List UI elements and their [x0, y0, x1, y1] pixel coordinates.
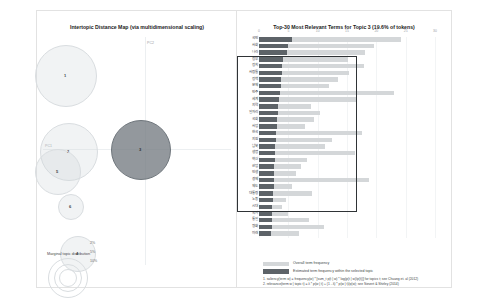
- term-row[interactable]: 대통령: [259, 191, 435, 196]
- topic-bubble-label-1: 1: [64, 73, 66, 78]
- pc2-axis-label: PC2: [147, 41, 154, 45]
- term-label[interactable]: 인생: [252, 170, 258, 175]
- bar-topic-frequency: [259, 124, 277, 129]
- bar-topic-frequency: [259, 104, 278, 109]
- bar-topic-frequency: [259, 171, 274, 176]
- term-label[interactable]: 나라: [252, 50, 258, 55]
- bar-topic-frequency: [259, 84, 281, 89]
- term-label[interactable]: 국회: [252, 117, 258, 122]
- bar-topic-frequency: [259, 44, 288, 49]
- term-row[interactable]: 세계: [259, 97, 435, 102]
- topic-bubble-label-6: 6: [69, 204, 71, 209]
- bar-topic-frequency: [259, 164, 274, 169]
- marginal-topic-distribution-legend: Marginal topic distribution 2%5%10%: [47, 231, 167, 287]
- term-label[interactable]: 대통령: [249, 191, 258, 196]
- term-row[interactable]: 국회: [259, 117, 435, 122]
- term-label[interactable]: 한국: [252, 130, 258, 135]
- bar-topic-frequency: [259, 158, 275, 163]
- term-row[interactable]: 사람들: [259, 71, 435, 76]
- term-label[interactable]: 미래: [252, 231, 258, 236]
- bar-topic-frequency: [259, 184, 274, 189]
- term-label[interactable]: 사람들: [249, 70, 258, 75]
- term-row[interactable]: 인생: [259, 171, 435, 176]
- bar-topic-frequency: [259, 57, 283, 62]
- term-label[interactable]: 평화: [252, 224, 258, 229]
- bar-topic-frequency: [259, 117, 277, 122]
- x-tick-0: 0: [258, 29, 260, 33]
- intertopic-distance-panel: Intertopic Distance Map (via multidimens…: [36, 10, 237, 288]
- term-label[interactable]: 남북: [252, 144, 258, 149]
- x-tick-25: 25: [404, 29, 408, 33]
- term-row[interactable]: 통일: [259, 218, 435, 223]
- term-row[interactable]: 정치: [259, 64, 435, 69]
- intertopic-map-title: Intertopic Distance Map (via multidimens…: [37, 24, 237, 30]
- term-row[interactable]: 산업: [259, 164, 435, 169]
- legend-row-overall: Overall term frequency: [263, 261, 449, 267]
- bar-plot-area[interactable]: 051015202530 국민사회나라정부정치사람들정책문제민주세계지역일자리국…: [259, 37, 435, 245]
- term-label[interactable]: 생명: [252, 150, 258, 155]
- marginal-size-label-5pct: 5%: [90, 250, 95, 254]
- term-row[interactable]: 나라: [259, 50, 435, 55]
- term-label[interactable]: 문제: [252, 83, 258, 88]
- term-row[interactable]: 혁신: [259, 158, 435, 163]
- intertopic-scatter-plot[interactable]: PC2 PC1 125643 Marginal topic distributi…: [37, 31, 237, 287]
- term-label[interactable]: 사업: [252, 124, 258, 129]
- term-label[interactable]: 산업: [252, 164, 258, 169]
- term-row[interactable]: 사회: [259, 44, 435, 49]
- term-row[interactable]: 정부: [259, 57, 435, 62]
- term-label[interactable]: 세계: [252, 97, 258, 102]
- bar-topic-frequency: [259, 71, 282, 76]
- bar-topic-frequency: [259, 205, 272, 210]
- term-label[interactable]: 노동: [252, 197, 258, 202]
- term-row[interactable]: 노동: [259, 198, 435, 203]
- bar-topic-frequency: [259, 111, 278, 116]
- term-label[interactable]: 시대: [252, 204, 258, 209]
- term-row[interactable]: 제도: [259, 184, 435, 189]
- term-label[interactable]: 통일: [252, 217, 258, 222]
- term-label[interactable]: 민주: [252, 90, 258, 95]
- term-label[interactable]: 국가: [252, 211, 258, 216]
- term-label[interactable]: 일자리: [249, 110, 258, 115]
- top-terms-panel: Top-30 Most Relevant Terms for Topic 3 (…: [236, 10, 452, 288]
- bar-topic-frequency: [259, 225, 272, 230]
- term-row[interactable]: 미래: [259, 231, 435, 236]
- term-row[interactable]: 국가: [259, 211, 435, 216]
- footnote-relevance: 2. relevance(term w | topic t) = λ * p(w…: [263, 282, 399, 286]
- term-row[interactable]: 지역: [259, 104, 435, 109]
- term-row[interactable]: 남북: [259, 144, 435, 149]
- term-label[interactable]: 혁신: [252, 157, 258, 162]
- term-label[interactable]: 정치: [252, 63, 258, 68]
- term-row[interactable]: 지원: [259, 138, 435, 143]
- term-label[interactable]: 정책: [252, 77, 258, 82]
- term-label[interactable]: 경제: [252, 177, 258, 182]
- term-row[interactable]: 경제: [259, 178, 435, 183]
- term-row[interactable]: 생명: [259, 151, 435, 156]
- bar-topic-frequency: [259, 178, 274, 183]
- topic-bubble-label-3: 3: [139, 147, 141, 152]
- legend-row-estimated: Estimated term frequency within the sele…: [263, 269, 449, 275]
- bar-topic-frequency: [259, 37, 292, 42]
- topic-bubble-label-5: 5: [56, 169, 58, 174]
- marginal-circle-10pct: [48, 258, 88, 298]
- term-label[interactable]: 제도: [252, 184, 258, 189]
- term-row[interactable]: 민주: [259, 91, 435, 96]
- term-row[interactable]: 평화: [259, 225, 435, 230]
- term-label[interactable]: 지역: [252, 103, 258, 108]
- bar-topic-frequency: [259, 77, 281, 82]
- term-label[interactable]: 국민: [252, 36, 258, 41]
- term-row[interactable]: 일자리: [259, 111, 435, 116]
- legend-swatch-estimated: [263, 269, 289, 274]
- term-label[interactable]: 지원: [252, 137, 258, 142]
- term-label[interactable]: 사회: [252, 43, 258, 48]
- term-row[interactable]: 문제: [259, 84, 435, 89]
- term-row[interactable]: 정책: [259, 77, 435, 82]
- legend-swatch-overall: [263, 262, 289, 267]
- term-row[interactable]: 한국: [259, 131, 435, 136]
- term-row[interactable]: 사업: [259, 124, 435, 129]
- bar-topic-frequency: [259, 138, 276, 143]
- term-row[interactable]: 국민: [259, 37, 435, 42]
- legend-label-estimated: Estimated term frequency within the sele…: [293, 269, 373, 273]
- bar-topic-frequency: [259, 64, 282, 69]
- term-label[interactable]: 정부: [252, 57, 258, 62]
- term-row[interactable]: 시대: [259, 205, 435, 210]
